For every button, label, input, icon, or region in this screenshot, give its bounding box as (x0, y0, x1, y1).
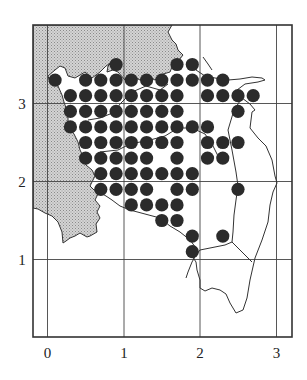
occurrence-dot (231, 105, 244, 118)
occurrence-dot (155, 198, 168, 211)
occurrence-dot (170, 58, 183, 71)
occurrence-dot (201, 74, 214, 87)
occurrence-dot (201, 120, 214, 133)
occurrence-dot (231, 183, 244, 196)
occurrence-dot (64, 120, 77, 133)
occurrence-dot (155, 89, 168, 102)
occurrence-dot (94, 89, 107, 102)
occurrence-dot (140, 198, 153, 211)
y-axis-labels: 1 2 3 (18, 96, 26, 268)
x-tick-label: 0 (44, 345, 52, 361)
occurrence-dot (170, 214, 183, 227)
occurrence-dot (186, 245, 199, 258)
occurrence-dot (94, 167, 107, 180)
occurrence-dot (49, 74, 62, 87)
occurrence-dot (216, 152, 229, 165)
occurrence-dot (186, 167, 199, 180)
occurrence-dot (94, 105, 107, 118)
occurrence-dot (110, 167, 123, 180)
occurrence-dot (79, 152, 92, 165)
occurrence-dot (125, 198, 138, 211)
y-tick-label: 3 (18, 96, 26, 112)
y-tick-label: 2 (18, 174, 26, 190)
occurrence-dot (140, 152, 153, 165)
occurrence-dot (110, 58, 123, 71)
occurrence-dot (216, 89, 229, 102)
occurrence-dot (140, 74, 153, 87)
occurrence-dot (110, 74, 123, 87)
x-tick-label: 1 (120, 345, 128, 361)
occurrence-dot (64, 105, 77, 118)
occurrence-dot (201, 136, 214, 149)
occurrence-dot (201, 89, 214, 102)
occurrence-dot (125, 167, 138, 180)
occurrence-dot (94, 152, 107, 165)
occurrence-dot (155, 167, 168, 180)
occurrence-dot (247, 89, 260, 102)
occurrence-dot (186, 74, 199, 87)
x-tick-label: 2 (196, 345, 204, 361)
occurrence-dot (79, 89, 92, 102)
occurrence-dot (125, 120, 138, 133)
occurrence-dot (94, 183, 107, 196)
occurrence-dot (64, 89, 77, 102)
occurrence-dot (125, 152, 138, 165)
occurrence-dot (170, 74, 183, 87)
occurrence-dot (170, 136, 183, 149)
occurrence-dot (170, 167, 183, 180)
occurrence-dot (216, 74, 229, 87)
occurrence-dot (79, 105, 92, 118)
occurrence-dot (110, 89, 123, 102)
occurrence-dot (79, 74, 92, 87)
distribution-map: 0 1 2 3 1 2 3 (0, 0, 307, 380)
occurrence-dot (155, 214, 168, 227)
occurrence-dot (125, 183, 138, 196)
occurrence-dot (79, 136, 92, 149)
occurrence-dot (170, 152, 183, 165)
occurrence-dot (155, 136, 168, 149)
occurrence-dot (94, 74, 107, 87)
occurrence-dot (216, 230, 229, 243)
occurrence-dot (216, 136, 229, 149)
occurrence-dot (186, 230, 199, 243)
occurrence-dot (170, 89, 183, 102)
occurrence-dot (125, 136, 138, 149)
occurrence-dot (231, 89, 244, 102)
occurrence-dot (170, 120, 183, 133)
occurrence-dot (110, 152, 123, 165)
occurrence-dot (79, 120, 92, 133)
x-tick-label: 3 (273, 345, 281, 361)
occurrence-dot (110, 183, 123, 196)
x-axis-labels: 0 1 2 3 (44, 345, 281, 361)
occurrence-dot (186, 120, 199, 133)
occurrence-dot (140, 120, 153, 133)
occurrence-dot (140, 167, 153, 180)
occurrence-dot (94, 136, 107, 149)
occurrence-dot (140, 136, 153, 149)
occurrence-dot (170, 198, 183, 211)
occurrence-dot (155, 120, 168, 133)
occurrence-dot (125, 89, 138, 102)
occurrence-dot (186, 58, 199, 71)
occurrence-dot (140, 105, 153, 118)
occurrence-dot (110, 136, 123, 149)
occurrence-dot (110, 105, 123, 118)
occurrence-dot (94, 120, 107, 133)
occurrence-dot (110, 120, 123, 133)
occurrence-dot (155, 105, 168, 118)
occurrence-dot (140, 89, 153, 102)
occurrence-dot (125, 74, 138, 87)
occurrence-dot (186, 183, 199, 196)
occurrence-dot (140, 183, 153, 196)
occurrence-dot (170, 105, 183, 118)
y-tick-label: 1 (18, 252, 26, 268)
occurrence-dot (155, 74, 168, 87)
occurrence-dot (125, 105, 138, 118)
occurrence-dot (201, 152, 214, 165)
occurrence-dot (231, 136, 244, 149)
occurrence-dot (170, 183, 183, 196)
